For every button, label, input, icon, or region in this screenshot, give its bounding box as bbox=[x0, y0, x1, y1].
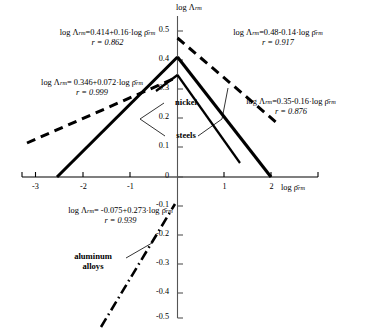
y-axis-title: log Λrm bbox=[176, 3, 202, 12]
leader-steels-left bbox=[140, 119, 165, 136]
equation-mid-right-line2: r = 0.876 bbox=[221, 107, 361, 117]
x-tick-marks bbox=[22, 172, 318, 177]
y-tick--0.2: -0.2 bbox=[140, 229, 169, 238]
y-tick--0.3: -0.3 bbox=[140, 258, 169, 267]
series-steels-right bbox=[178, 75, 241, 163]
equation-top-left-line1: log Λrm=0.414+0.16·log ρ̄rm bbox=[30, 28, 185, 38]
equation-bottom-line1: log Λrm= -0.075+0.273·log ρ̄rm bbox=[38, 206, 203, 216]
x-tick-2: 2 bbox=[260, 182, 283, 191]
label-aluminum-line1: aluminum bbox=[74, 251, 112, 261]
equation-mid-left-line2: r = 0.999 bbox=[12, 88, 172, 98]
equation-mid-right: log Λrm=0.35-0.16·log ρ̄rm r = 0.876 bbox=[221, 97, 361, 118]
y-tick-0.2: 0.2 bbox=[143, 112, 169, 121]
x-tick--2: -2 bbox=[72, 182, 95, 191]
chart-canvas bbox=[0, 0, 365, 331]
y-tick--0.5: -0.5 bbox=[140, 312, 169, 321]
y-tick-0.4: 0.4 bbox=[143, 54, 169, 63]
equation-top-right-line2: r = 0.917 bbox=[203, 38, 353, 48]
x-tick--1: -1 bbox=[119, 182, 142, 191]
y-tick--0.4: -0.4 bbox=[140, 287, 169, 296]
equation-top-left: log Λrm=0.414+0.16·log ρ̄rm r = 0.862 bbox=[30, 28, 185, 49]
label-steels: steels bbox=[166, 131, 206, 141]
label-aluminum-alloys: aluminum alloys bbox=[58, 252, 128, 272]
y-tick-0.1: 0.1 bbox=[143, 141, 169, 150]
x-axis-title: log ρ̄rm bbox=[281, 183, 305, 192]
label-aluminum-line2: alloys bbox=[82, 261, 103, 271]
y-tick-0: 0 bbox=[143, 171, 169, 180]
equation-bottom: log Λrm= -0.075+0.273·log ρ̄rm r = 0.939 bbox=[38, 206, 203, 227]
equation-top-left-line2: r = 0.862 bbox=[30, 38, 185, 48]
equation-top-right: log Λrm=0.48-0.14·log ρ̄rm r = 0.917 bbox=[203, 28, 353, 49]
equation-mid-left: log Λrm= 0.346+0.072·log ρ̄rm r = 0.999 bbox=[12, 78, 172, 99]
label-nickel: nickel bbox=[166, 98, 206, 108]
equation-mid-left-line1: log Λrm= 0.346+0.072·log ρ̄rm bbox=[12, 78, 172, 88]
equation-bottom-line2: r = 0.939 bbox=[38, 216, 203, 226]
equation-mid-right-line1: log Λrm=0.35-0.16·log ρ̄rm bbox=[221, 97, 361, 107]
equation-top-right-line1: log Λrm=0.48-0.14·log ρ̄rm bbox=[203, 28, 353, 38]
x-tick--3: -3 bbox=[24, 182, 47, 191]
x-tick-1: 1 bbox=[213, 182, 236, 191]
y-tick-marks bbox=[178, 31, 184, 318]
leader-aluminum bbox=[126, 243, 152, 258]
